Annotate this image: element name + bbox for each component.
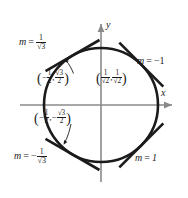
slope-fraction-top-left: 1 √3 [36,34,46,51]
tangent-line-upper-left [46,40,100,71]
x-axis-label: x [161,88,165,98]
point-x-fraction-upper-right: 1 √2 [101,70,111,86]
point-y-denominator-lower-left: 2 [57,117,67,125]
slope-numerator-bottom-left: 1 [37,148,47,156]
slope-label-top-right: m=−1 [137,56,165,66]
slope-equals-bottom-right: = [142,152,152,163]
point-y-denominator-upper-right: √2 [112,77,122,85]
point-label-lower-left: (− 1 2 ,− √3 2 ) [34,110,71,126]
close-paren-lower-left: ) [66,111,71,126]
point-y-numerator-upper-left: √3 [55,70,65,77]
slope-value-top-right: −1 [154,55,165,66]
slope-value-bottom-right: 1 [152,152,157,163]
point-x-denominator-upper-right: √2 [101,77,111,85]
x-axis-arrowhead [164,102,172,109]
point-y-numerator-upper-right: 1 [112,70,122,77]
tangent-line-lower-left [46,139,100,170]
leader-arrow-lower-left [65,124,72,143]
slope-denominator-top-left: √3 [36,42,46,51]
point-label-upper-right: ( 1 √2 , 1 √2 ) [96,70,127,86]
point-y-numerator-lower-left: √3 [57,110,67,117]
slope-label-bottom-left: m=− 1 √3 [14,148,47,165]
point-y-fraction-lower-left: √3 2 [57,110,67,126]
slope-label-top-left: m= 1 √3 [19,34,46,51]
point-y-fraction-upper-left: √3 2 [55,70,65,86]
slope-equals-top-left: = [26,36,36,47]
slope-equals-bottom-left: = [21,150,31,161]
point-y-fraction-upper-right: 1 √2 [112,70,122,86]
slope-equals-top-right: = [144,55,154,66]
point-y-denominator-upper-left: 2 [55,77,65,85]
close-paren-upper-right: ) [122,71,127,86]
y-axis-arrowhead [98,24,105,32]
slope-denominator-bottom-left: √3 [37,156,47,165]
figure-canvas [0,0,188,198]
slope-fraction-bottom-left: 1 √3 [37,148,47,165]
circle-tangent-figure: y x m= 1 √3 m=−1 m=− 1 √3 m=1 (− 1 2 , √… [0,0,188,198]
close-paren-upper-left: ) [64,71,69,86]
point-label-upper-left: (− 1 2 , √3 2 ) [37,70,69,86]
point-x-numerator-upper-right: 1 [101,70,111,77]
y-axis-label: y [106,20,110,30]
slope-numerator-top-left: 1 [36,34,46,42]
slope-label-bottom-right: m=1 [135,153,157,163]
